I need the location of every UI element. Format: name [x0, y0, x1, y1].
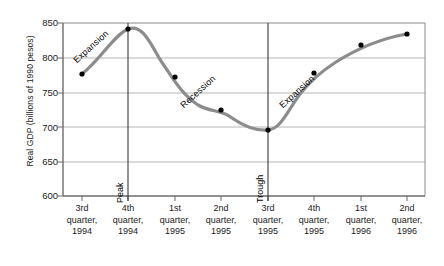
x-tick-q2-1996: 2nd quarter, 1996: [379, 203, 435, 238]
peak-label: Peak: [115, 182, 125, 203]
y-tick-marks: [58, 23, 63, 196]
x-tick-line: quarter,: [379, 215, 435, 227]
trough-label: Trough: [255, 175, 265, 203]
gdp-business-cycle-chart: Real GDP (billions of 1990 pesos) 850 80…: [0, 0, 444, 266]
plot-background: [63, 23, 425, 196]
x-tick-line: 1996: [379, 226, 435, 238]
x-tick-line: 2nd: [379, 203, 435, 215]
x-tick-marks: [82, 196, 407, 201]
